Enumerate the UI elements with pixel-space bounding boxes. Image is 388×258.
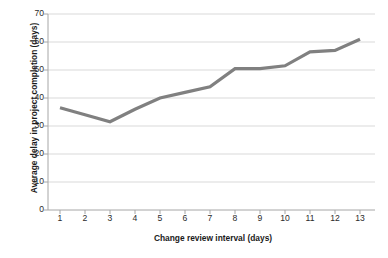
x-axis-tick-label: 6: [173, 214, 197, 223]
y-axis-ticks: [44, 14, 48, 210]
x-axis-tick-label: 7: [198, 214, 222, 223]
x-axis-tick-label: 10: [273, 214, 297, 223]
x-axis-tick-label: 5: [148, 214, 172, 223]
x-axis-tick-label: 4: [123, 214, 147, 223]
x-axis-tick-label: 11: [298, 214, 322, 223]
data-series-line: [60, 39, 360, 122]
x-axis-tick-label: 2: [73, 214, 97, 223]
chart-container: Average delay in project completion (day…: [0, 0, 388, 258]
x-axis-tick-label: 13: [348, 214, 372, 223]
x-axis-tick-label: 3: [98, 214, 122, 223]
x-axis-tick-label: 9: [248, 214, 272, 223]
x-axis-title: Change review interval (days): [48, 233, 378, 243]
x-axis-tick-label: 8: [223, 214, 247, 223]
x-axis-tick-label: 1: [48, 214, 72, 223]
x-axis-tick-label: 12: [323, 214, 347, 223]
axes: [48, 14, 375, 210]
gridlines: [48, 14, 375, 182]
